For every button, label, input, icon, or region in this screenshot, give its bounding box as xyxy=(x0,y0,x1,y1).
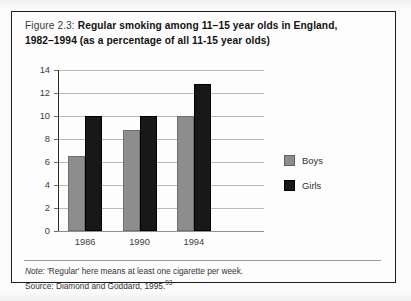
y-axis-tick-mark xyxy=(54,162,58,163)
x-axis-tick-label: 1994 xyxy=(183,237,204,247)
x-axis-tick-label: 1990 xyxy=(129,237,150,247)
figure-title-line-1: Regular smoking among 11–15 year olds in… xyxy=(78,20,338,31)
y-axis-tick-label: 10 xyxy=(24,111,50,121)
x-axis-tick-labels: 198619901994 xyxy=(58,235,221,251)
legend-label-girls: Girls xyxy=(302,180,321,191)
footnote-divider xyxy=(24,260,381,261)
footnote-source-superscript: 93 xyxy=(165,279,172,286)
legend-item-girls: Girls xyxy=(284,180,374,191)
figure-frame: Figure 2.3: Regular smoking among 11–15 … xyxy=(11,11,396,283)
y-axis-tick-mark xyxy=(54,231,58,232)
footnote-source: Source: Diamond and Goddard, 1995.93 xyxy=(25,277,375,292)
y-axis-tick-mark xyxy=(54,116,58,117)
figure-number-label: Figure 2.3: xyxy=(25,20,75,31)
bar-girls-1994 xyxy=(194,84,211,231)
legend-swatch-boys-icon xyxy=(284,155,295,166)
bar-boys-1994 xyxy=(177,116,194,231)
y-axis-tick-labels: 02468101214 xyxy=(20,70,50,231)
bar-chart: 02468101214 198619901994 Boys Girls xyxy=(12,60,395,252)
plot-area xyxy=(58,70,221,231)
y-axis-tick-mark xyxy=(54,93,58,94)
figure-page: Figure 2.3: Regular smoking among 11–15 … xyxy=(0,0,411,301)
y-axis-tick-mark xyxy=(54,208,58,209)
bar-girls-1990 xyxy=(140,116,157,231)
footnote-source-text: Source: Diamond and Goddard, 1995. xyxy=(25,281,165,291)
y-axis-tick-label: 14 xyxy=(24,65,50,75)
footnote-note-lead: Note: xyxy=(25,266,45,276)
y-axis-tick-mark xyxy=(54,139,58,140)
legend-label-boys: Boys xyxy=(302,155,323,166)
y-axis-tick-label: 6 xyxy=(24,157,50,167)
y-axis-tick-label: 4 xyxy=(24,180,50,190)
y-axis-tick-label: 2 xyxy=(24,203,50,213)
chart-legend: Boys Girls xyxy=(284,155,374,205)
footnote-note: Note: 'Regular' here means at least one … xyxy=(25,265,375,277)
footnote-note-text: 'Regular' here means at least one cigare… xyxy=(45,266,243,276)
legend-item-boys: Boys xyxy=(284,155,374,166)
gridline xyxy=(58,231,264,232)
figure-title-line-2: 1982–1994 (as a percentage of all 11-15 … xyxy=(25,35,270,46)
y-axis-tick-label: 8 xyxy=(24,134,50,144)
bar-girls-1986 xyxy=(85,116,102,231)
y-axis-tick-mark xyxy=(54,70,58,71)
y-axis-tick-label: 0 xyxy=(24,226,50,236)
y-axis-tick-label: 12 xyxy=(24,88,50,98)
x-axis-tick-label: 1986 xyxy=(75,237,96,247)
y-axis-tick-mark xyxy=(54,185,58,186)
bar-boys-1986 xyxy=(68,156,85,231)
legend-swatch-girls-icon xyxy=(284,180,295,191)
figure-caption: Figure 2.3: Regular smoking among 11–15 … xyxy=(25,19,381,48)
bar-boys-1990 xyxy=(123,130,140,231)
figure-footnotes: Note: 'Regular' here means at least one … xyxy=(25,265,375,293)
